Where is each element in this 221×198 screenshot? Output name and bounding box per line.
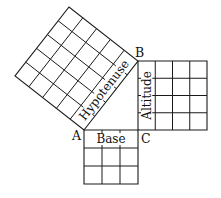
base-label: Base <box>96 132 125 146</box>
altitude-label: Altitude <box>140 71 154 121</box>
pythagoras-diagram: Hypotenuse Altitude Base A B C <box>0 0 221 198</box>
vertex-c-label: C <box>141 131 151 146</box>
vertex-a-label: A <box>71 128 82 143</box>
hypotenuse-label: Hypotenuse <box>76 57 132 123</box>
hypotenuse-grid-row <box>43 29 97 98</box>
hypotenuse-grid-row <box>29 18 83 87</box>
vertex-b-label: B <box>135 45 144 60</box>
